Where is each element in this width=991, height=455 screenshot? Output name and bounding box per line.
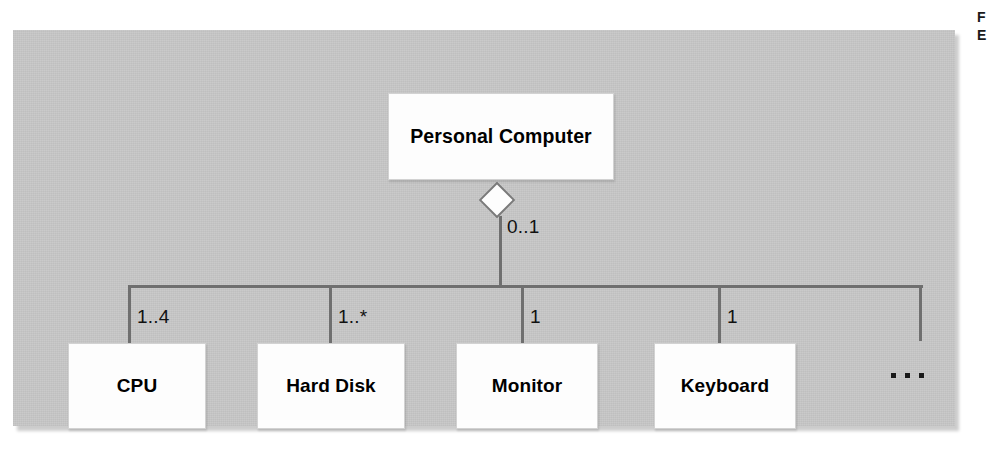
class-box-cpu[interactable]: CPU (68, 343, 206, 429)
class-box-personal-computer[interactable]: Personal Computer (388, 93, 614, 180)
aggregation-diamond-icon (479, 182, 516, 219)
caption-fragment-line-2: E (977, 26, 991, 44)
multiplicity-monitor: 1 (530, 306, 541, 328)
multiplicity-keyboard: 1 (727, 306, 738, 328)
ellipsis-more-parts (891, 373, 924, 378)
drop-line-cpu (128, 285, 131, 345)
multiplicity-cpu: 1..4 (137, 306, 170, 328)
class-box-hard-disk[interactable]: Hard Disk (257, 343, 405, 429)
caption-fragment-line-1: F (977, 8, 991, 26)
class-box-monitor[interactable]: Monitor (456, 343, 598, 429)
drop-line-keyboard (718, 285, 721, 345)
multiplicity-hard-disk: 1..* (338, 306, 367, 328)
figure-screenshot: Personal Computer CPU Hard Disk Monitor … (0, 0, 991, 455)
bus-connector-line (128, 285, 923, 288)
drop-line-hard-disk (329, 285, 332, 345)
ellipsis-dot (905, 373, 910, 378)
trunk-connector-line (499, 216, 502, 287)
caption-fragment: F E (977, 8, 991, 44)
ellipsis-dot (891, 373, 896, 378)
drop-line-more (919, 285, 922, 341)
diagram-panel: Personal Computer CPU Hard Disk Monitor … (13, 30, 955, 426)
multiplicity-personal-computer: 0..1 (507, 216, 540, 238)
drop-line-monitor (521, 285, 524, 345)
class-box-keyboard[interactable]: Keyboard (654, 343, 796, 429)
ellipsis-dot (919, 373, 924, 378)
